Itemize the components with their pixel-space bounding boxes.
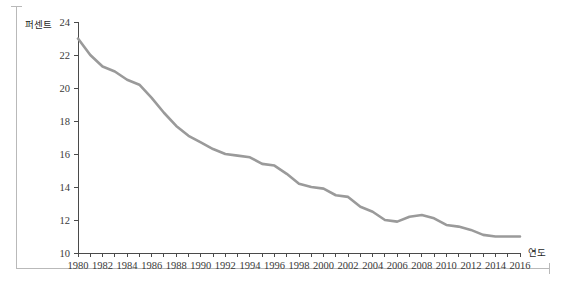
x-axis-title: 연도: [528, 247, 546, 258]
x-tick-label: 1982: [92, 260, 113, 271]
x-tick-label: 1984: [117, 260, 139, 271]
y-tick-label: 10: [60, 248, 71, 259]
y-tick-label: 20: [60, 83, 71, 94]
x-tick-label: 2008: [411, 260, 432, 271]
x-tick-label: 2002: [338, 260, 359, 271]
y-tick-label: 24: [60, 17, 71, 28]
x-tick-label: 2000: [313, 260, 334, 271]
x-tick-label: 2016: [510, 260, 531, 271]
line-chart-plot: 1012141618202224 19801982198419861988199…: [0, 0, 565, 281]
chart-figure: 1012141618202224 19801982198419861988199…: [0, 0, 565, 281]
y-tick-label: 16: [60, 149, 71, 160]
x-tick-label: 2010: [436, 260, 457, 271]
x-tick-label: 1992: [215, 260, 236, 271]
x-axis: 1980198219841986198819901992199419961998…: [68, 253, 531, 271]
x-tick-label: 1990: [190, 260, 211, 271]
x-tick-label: 1996: [264, 260, 285, 271]
x-tick-label: 2012: [460, 260, 481, 271]
y-tick-label: 14: [60, 182, 71, 193]
x-tick-label: 1986: [141, 260, 162, 271]
x-tick-label: 2006: [387, 260, 408, 271]
y-tick-label: 22: [60, 50, 71, 61]
y-tick-label: 12: [60, 215, 71, 226]
x-tick-label: 1994: [239, 260, 261, 271]
y-axis: 1012141618202224: [60, 17, 79, 259]
y-axis-title: 퍼센트: [25, 19, 52, 30]
x-tick-label: 1988: [166, 260, 187, 271]
data-series: [78, 39, 520, 237]
x-tick-label: 2014: [485, 260, 507, 271]
y-tick-label: 18: [60, 116, 71, 127]
x-tick-label: 2004: [362, 260, 384, 271]
data-line-series: [78, 39, 520, 237]
x-tick-label: 1998: [289, 260, 310, 271]
x-tick-label: 1980: [68, 260, 89, 271]
